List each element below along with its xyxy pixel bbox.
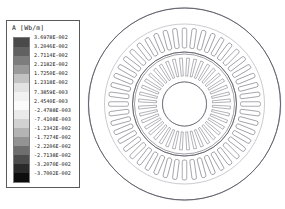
colorbar-band <box>14 164 29 173</box>
colorbar-tick-label: 1.2318E-002 <box>34 78 78 87</box>
legend-title: A [Wb/m] <box>12 24 44 32</box>
colorbar-band <box>14 38 29 47</box>
colorbar-tick-label: -2.4788E-003 <box>34 106 78 115</box>
machine-flux-plot <box>84 0 285 209</box>
colorbar-tick-label: 3.2046E-002 <box>34 42 78 51</box>
colorbar-tick-label: -3.7002E-002 <box>34 169 78 178</box>
colorbar-tick-labels: 3.6978E-0023.2046E-0022.7114E-0022.2182E… <box>34 33 78 187</box>
colorbar-tick-label: 2.4540E-003 <box>34 97 78 106</box>
colorbar-tick-label: 3.6978E-002 <box>34 33 78 42</box>
shaft-circle-top <box>163 82 207 126</box>
colorbar-tick-label: 7.3859E-003 <box>34 88 78 97</box>
colorbar-tick-label: -1.2342E-002 <box>34 124 78 133</box>
colorbar-band <box>14 56 29 65</box>
colorbar-band <box>14 92 29 101</box>
colorbar-band <box>14 83 29 92</box>
stator-slot <box>182 28 186 48</box>
machine-geometry-layer <box>89 8 281 200</box>
stator-slot <box>241 102 261 106</box>
colorbar-tick-label: -3.2070E-002 <box>34 160 78 169</box>
legend-panel: A [Wb/m] 3.6978E-0023.2046E-0022.7114E-0… <box>6 20 80 188</box>
stator-slot <box>182 160 186 180</box>
colorbar-band <box>14 119 29 128</box>
legend-scale: 3.6978E-0023.2046E-0022.7114E-0022.2182E… <box>13 37 77 185</box>
stator-slot <box>109 102 129 106</box>
colorbar-band <box>14 137 29 146</box>
colorbar-tick-label: 1.7250E-002 <box>34 69 78 78</box>
colorbar-band <box>14 155 29 164</box>
colorbar-band <box>14 128 29 137</box>
machine-cross-section-svg <box>84 0 285 209</box>
colorbar-tick-label: -7.4108E-003 <box>34 115 78 124</box>
fea-flux-plot-screen: A [Wb/m] 3.6978E-0023.2046E-0022.7114E-0… <box>0 0 285 209</box>
colorbar-band <box>14 47 29 56</box>
colorbar-tick-label: -1.7274E-002 <box>34 133 78 142</box>
colorbar-band <box>14 110 29 119</box>
colorbar-tick-label: 2.7114E-002 <box>34 51 78 60</box>
colorbar-band <box>14 65 29 74</box>
colorbar-band <box>14 74 29 83</box>
colorbar-tick-label: -2.2206E-002 <box>34 142 78 151</box>
colorbar-tick-label: -2.7138E-002 <box>34 151 78 160</box>
colorbar-band <box>14 146 29 155</box>
colorbar <box>13 37 30 183</box>
colorbar-band <box>14 101 29 110</box>
colorbar-tick-label: 2.2182E-002 <box>34 60 78 69</box>
colorbar-band <box>14 173 29 182</box>
